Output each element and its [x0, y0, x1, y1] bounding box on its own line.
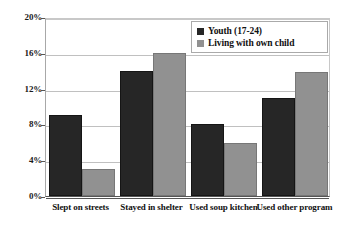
gridline-12	[46, 91, 329, 92]
bar-youth	[120, 71, 153, 196]
y-axis-tick-mark	[41, 197, 45, 198]
legend-item: Youth (17-24)	[197, 25, 323, 37]
x-axis-category-label: Used other program	[253, 202, 336, 214]
gridline-0	[46, 198, 329, 199]
bar-living-with-own-child	[82, 169, 115, 196]
gridline-16	[46, 55, 329, 56]
legend-item: Living with own child	[197, 37, 323, 49]
legend-swatch-icon	[197, 28, 204, 35]
bar-youth	[191, 124, 224, 196]
bar-living-with-own-child	[224, 143, 257, 196]
bar-living-with-own-child	[295, 72, 328, 196]
bar-youth	[49, 115, 82, 196]
legend-label: Living with own child	[208, 38, 294, 49]
y-axis-tick-label: 20%	[2, 13, 42, 22]
y-axis-tick-label: 4%	[2, 156, 42, 165]
bar-youth	[262, 98, 295, 196]
legend-label: Youth (17-24)	[208, 26, 262, 37]
y-axis-tick-label: 8%	[2, 120, 42, 129]
y-axis-tick-label: 0%	[2, 192, 42, 201]
bar-chart: 20%16%12%8%4%0% Slept on streetsStayed i…	[0, 0, 338, 241]
x-axis-category-label: Stayed in shelter	[110, 202, 193, 214]
legend-swatch-icon	[197, 40, 204, 47]
y-axis-tick-label: 12%	[2, 85, 42, 94]
y-axis-tick-label: 16%	[2, 49, 42, 58]
bar-living-with-own-child	[153, 53, 186, 196]
gridline-20	[46, 19, 329, 20]
chart-legend: Youth (17-24)Living with own child	[191, 21, 328, 53]
